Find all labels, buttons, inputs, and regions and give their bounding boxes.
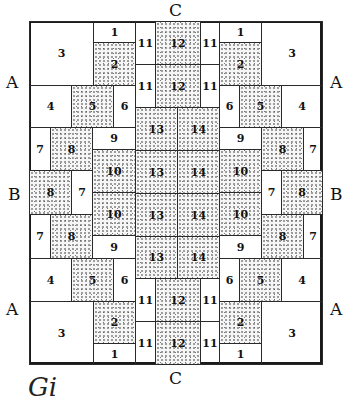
patch-10: 10	[92, 192, 136, 236]
patch-2: 2	[219, 301, 262, 344]
patch-6: 6	[113, 258, 136, 302]
patch-4: 4	[29, 258, 72, 302]
patch-number: 9	[110, 132, 118, 145]
patch-6: 6	[219, 258, 240, 302]
patch-number: 11	[202, 337, 217, 350]
patch-8: 8	[50, 214, 93, 259]
patch-11: 11	[200, 21, 220, 65]
patch-number: 14	[191, 166, 206, 179]
patch-11: 11	[135, 64, 156, 108]
label-left-lower-a: A	[6, 301, 18, 318]
patch-8: 8	[29, 170, 72, 215]
patch-10: 10	[92, 149, 136, 193]
patch-11: 11	[135, 278, 156, 322]
patch-11: 11	[200, 64, 220, 108]
patch-number: 3	[288, 47, 296, 60]
patch-number: 2	[237, 316, 245, 329]
patch-12: 12	[155, 278, 201, 322]
patch-number: 3	[58, 327, 66, 340]
patch-13: 13	[135, 150, 178, 194]
patch-9: 9	[219, 127, 262, 150]
patch-4: 4	[281, 258, 323, 302]
patch-9: 9	[219, 235, 262, 259]
patch-13: 13	[135, 107, 178, 151]
label-right-lower-a: A	[330, 301, 342, 318]
patch-number: 5	[89, 100, 97, 113]
patch-number: 10	[233, 165, 248, 178]
patch-number: 10	[106, 208, 121, 221]
patch-number: 7	[309, 143, 317, 156]
patch-number: 14	[191, 251, 206, 264]
patch-4: 4	[29, 85, 72, 128]
quilt-block-grid: 3124567891087107894563211112111112111314…	[29, 21, 322, 364]
patch-number: 14	[191, 209, 206, 222]
patch-number: 12	[170, 337, 185, 350]
patch-12: 12	[155, 21, 201, 65]
patch-1: 1	[219, 343, 262, 365]
label-top-c: C	[169, 2, 182, 19]
patch-number: 9	[237, 241, 245, 254]
patch-number: 4	[47, 100, 55, 113]
patch-14: 14	[177, 193, 220, 237]
patch-number: 5	[257, 274, 265, 287]
patch-2: 2	[93, 301, 136, 344]
patch-8: 8	[261, 214, 304, 259]
patch-5: 5	[71, 258, 114, 302]
patch-number: 8	[279, 143, 287, 156]
patch-number: 6	[121, 274, 129, 287]
patch-number: 10	[233, 208, 248, 221]
patch-9: 9	[92, 235, 136, 259]
patch-number: 8	[68, 143, 76, 156]
patch-number: 4	[47, 274, 55, 287]
patch-number: 2	[111, 316, 119, 329]
patch-number: 13	[149, 166, 164, 179]
patch-11: 11	[200, 278, 220, 322]
patch-number: 1	[237, 348, 245, 361]
patch-7: 7	[261, 170, 282, 215]
patch-1: 1	[219, 21, 262, 43]
caption-fragment: Gi	[28, 374, 57, 400]
patch-number: 12	[170, 37, 185, 50]
patch-number: 9	[237, 132, 245, 145]
patch-2: 2	[93, 42, 136, 86]
patch-number: 3	[58, 47, 66, 60]
patch-number: 10	[106, 165, 121, 178]
patch-7: 7	[303, 127, 323, 171]
patch-number: 11	[202, 80, 217, 93]
patch-number: 7	[78, 186, 86, 199]
patch-1: 1	[93, 21, 136, 43]
patch-number: 8	[279, 230, 287, 243]
patch-number: 13	[149, 251, 164, 264]
patch-14: 14	[177, 107, 220, 151]
patch-number: 8	[47, 186, 55, 199]
patch-number: 3	[288, 327, 296, 340]
patch-3: 3	[261, 301, 323, 365]
patch-13: 13	[135, 236, 178, 279]
patch-number: 6	[121, 100, 129, 113]
patch-14: 14	[177, 236, 220, 279]
patch-7: 7	[303, 214, 323, 259]
patch-8: 8	[261, 127, 304, 171]
patch-7: 7	[29, 127, 51, 171]
patch-number: 4	[298, 274, 306, 287]
patch-10: 10	[219, 149, 262, 193]
patch-number: 11	[138, 37, 153, 50]
patch-number: 12	[170, 80, 185, 93]
patch-4: 4	[281, 85, 323, 128]
patch-number: 2	[237, 58, 245, 71]
patch-8: 8	[281, 170, 323, 215]
patch-number: 6	[226, 274, 234, 287]
label-bottom-c: C	[169, 370, 182, 387]
label-right-middle-b: B	[330, 186, 343, 203]
label-right-upper-a: A	[330, 74, 342, 91]
patch-3: 3	[29, 21, 94, 86]
patch-5: 5	[71, 85, 114, 128]
label-left-upper-a: A	[6, 74, 18, 91]
patch-number: 11	[138, 80, 153, 93]
patch-number: 14	[191, 123, 206, 136]
patch-9: 9	[92, 127, 136, 150]
patch-11: 11	[135, 321, 156, 365]
patch-number: 7	[268, 186, 276, 199]
patch-number: 8	[298, 186, 306, 199]
patch-number: 7	[309, 230, 317, 243]
